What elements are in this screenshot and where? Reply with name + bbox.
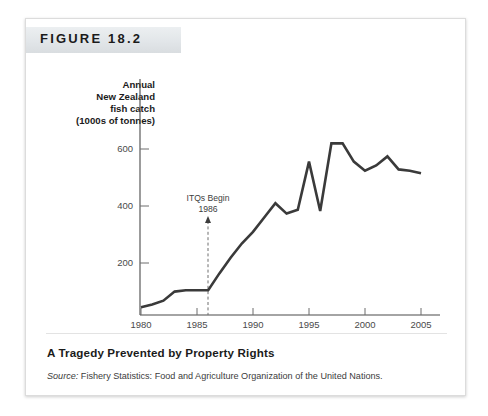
y-axis-label-line-3: fish catch bbox=[110, 103, 155, 114]
data-series-line bbox=[141, 143, 421, 307]
y-tick-label-400: 400 bbox=[117, 200, 133, 211]
itq-annotation: ITQs Begin 1986 bbox=[187, 193, 230, 315]
x-tick-label-2005: 2005 bbox=[410, 319, 431, 330]
figure-header-band: FIGURE 18.2 bbox=[26, 27, 181, 53]
x-tick-label-1985: 1985 bbox=[186, 319, 207, 330]
itq-annotation-line-2: 1986 bbox=[198, 204, 217, 214]
y-axis-ticks: 600 400 200 bbox=[117, 143, 149, 268]
y-tick-label-600: 600 bbox=[117, 143, 133, 154]
itq-arrow-icon bbox=[205, 216, 211, 223]
x-tick-label-1980: 1980 bbox=[130, 319, 151, 330]
y-axis-label-line-2: New Zealand bbox=[96, 91, 155, 102]
figure-source-note: Source: Fishery Statistics: Food and Agr… bbox=[47, 371, 383, 381]
y-axis-label-line-1: Annual bbox=[122, 79, 155, 90]
caption-divider bbox=[46, 333, 447, 334]
y-tick-label-200: 200 bbox=[117, 257, 133, 268]
itq-annotation-line-1: ITQs Begin bbox=[187, 193, 230, 203]
figure-card: FIGURE 18.2 Annual New Zealand fish catc… bbox=[25, 18, 466, 396]
source-prefix: Source: bbox=[47, 371, 78, 381]
chart-plot-area: Annual New Zealand fish catch (1000s of … bbox=[26, 53, 467, 333]
y-axis-label: Annual New Zealand fish catch (1000s of … bbox=[76, 79, 155, 126]
x-axis-ticks: 1980 1985 1990 1995 2000 2005 bbox=[130, 308, 431, 330]
source-text: Fishery Statistics: Food and Agriculture… bbox=[78, 371, 382, 381]
fish-catch-line-chart: Annual New Zealand fish catch (1000s of … bbox=[26, 53, 467, 333]
x-tick-label-2000: 2000 bbox=[354, 319, 375, 330]
figure-caption-title: A Tragedy Prevented by Property Rights bbox=[47, 346, 275, 359]
x-tick-label-1990: 1990 bbox=[242, 319, 263, 330]
figure-number-label: FIGURE 18.2 bbox=[40, 31, 142, 46]
y-axis-label-line-4: (1000s of tonnes) bbox=[76, 115, 155, 126]
x-tick-label-1995: 1995 bbox=[298, 319, 319, 330]
